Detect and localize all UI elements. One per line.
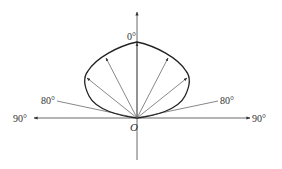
label-80-left: 80° bbox=[41, 95, 55, 106]
label-90-left: 90° bbox=[13, 113, 27, 124]
arrow-left-30 bbox=[106, 58, 137, 118]
label-90-right: 90° bbox=[252, 113, 266, 124]
polar-diagram: 0° 80° 80° 90° 90° O bbox=[0, 0, 282, 169]
arrow-right-30 bbox=[137, 58, 168, 118]
label-80-right: 80° bbox=[220, 95, 234, 106]
origin-label: O bbox=[130, 121, 138, 133]
label-0-deg: 0° bbox=[127, 31, 136, 42]
